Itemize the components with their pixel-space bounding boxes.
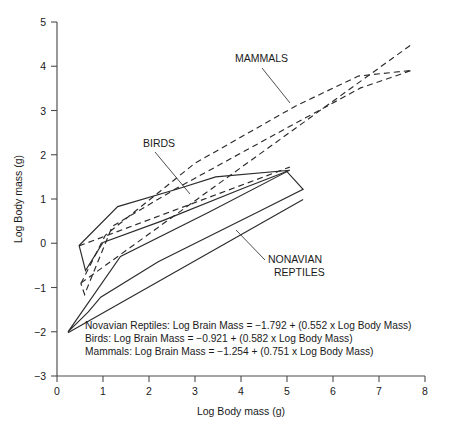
mammals-regression-line [81,44,412,283]
x-axis-ticks: 0 1 2 3 4 5 6 7 8 [54,376,428,397]
y-axis-title: Log Body mass (g) [12,155,24,243]
chart-figure: 5 4 3 2 1 0 −1 −2 −3 0 1 2 3 4 5 [0,0,449,428]
y-tick-label-neg3: −3 [34,370,46,382]
data-series-group [68,44,412,333]
reptiles-hull [68,172,303,332]
y-tick-label-neg2: −2 [34,326,46,338]
equation-reptiles: Novavian Reptiles: Log Brain Mass = −1.7… [85,320,411,331]
reptiles-leader-line [236,230,265,260]
y-tick-label-1: 1 [40,193,46,205]
x-tick-label-2: 2 [146,385,152,397]
annotation-leaders [155,68,290,260]
reptiles-label-line2: REPTILES [274,266,325,278]
y-tick-label-0: 0 [40,237,46,249]
y-tick-label-3: 3 [40,105,46,117]
x-tick-label-4: 4 [238,385,244,397]
chart-svg: 5 4 3 2 1 0 −1 −2 −3 0 1 2 3 4 5 [0,0,449,428]
x-tick-label-1: 1 [100,385,106,397]
x-tick-label-8: 8 [422,385,428,397]
x-tick-label-6: 6 [330,385,336,397]
y-tick-label-4: 4 [40,60,46,72]
birds-regression-line [79,167,290,246]
reptiles-regression-line [68,199,303,332]
x-tick-label-3: 3 [192,385,198,397]
x-tick-label-5: 5 [284,385,290,397]
mammals-leader-line [262,68,290,103]
y-tick-label-2: 2 [40,149,46,161]
x-tick-label-0: 0 [54,385,60,397]
equation-mammals: Mammals: Log Brain Mass = −1.254 + (0.75… [85,346,374,357]
reptiles-label-line1: NONAVIAN [268,253,322,265]
y-axis-ticks: 5 4 3 2 1 0 −1 −2 −3 [34,16,57,382]
mammals-hull [81,70,412,294]
mammals-label: MAMMALS [235,52,288,64]
birds-leader-line [155,152,190,194]
birds-hull [79,170,290,270]
y-tick-label-neg1: −1 [34,282,46,294]
x-axis-title: Log Body mass (g) [197,405,285,417]
y-tick-label-5: 5 [40,16,46,28]
x-tick-label-7: 7 [376,385,382,397]
birds-label: BIRDS [143,137,175,149]
equation-birds: Birds: Log Brain Mass = −0.921 + (0.582 … [85,333,353,344]
equation-block: Novavian Reptiles: Log Brain Mass = −1.7… [85,320,411,357]
